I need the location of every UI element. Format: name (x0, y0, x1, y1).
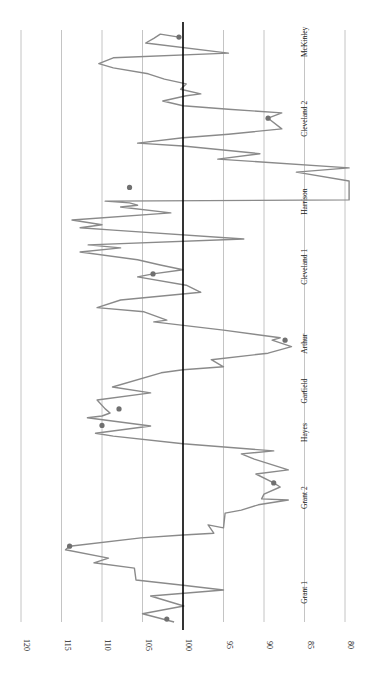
tick-label-90: 90 (265, 641, 274, 649)
marker-dot-8 (265, 116, 270, 121)
tick-label-110: 110 (103, 639, 112, 651)
marker-dot-3 (99, 423, 104, 428)
tick-label-95: 95 (225, 641, 234, 649)
marker-dot-5 (282, 338, 287, 343)
value-axis-ticks: 12011511010510095908580 (22, 639, 355, 651)
period-label-mckinley: McKinley (301, 26, 310, 57)
marker-dot-1 (67, 544, 72, 549)
period-labels: Grant 1Grant 2HayesGarfieldArthurClevela… (301, 26, 310, 603)
period-label-cleveland-1: Cleveland 1 (301, 249, 310, 285)
chart-canvas: 12011511010510095908580 Grant 1Grant 2Ha… (0, 0, 375, 682)
tick-label-115: 115 (63, 639, 72, 651)
point-markers (67, 35, 288, 622)
tick-label-100: 100 (184, 639, 193, 651)
tick-label-85: 85 (306, 641, 315, 649)
marker-dot-0 (164, 616, 169, 621)
period-label-grant-2: Grant 2 (301, 486, 310, 509)
marker-dot-9 (176, 35, 181, 40)
marker-dot-6 (150, 271, 155, 276)
period-label-arthur: Arthur (301, 333, 310, 353)
tick-label-80: 80 (346, 641, 355, 649)
period-label-cleveland-2: Cleveland 2 (301, 101, 310, 137)
rotated-line-chart: 12011511010510095908580 Grant 1Grant 2Ha… (0, 0, 375, 682)
marker-dot-2 (271, 480, 276, 485)
period-label-grant-1: Grant 1 (301, 581, 310, 604)
period-label-harrison: Harrison (301, 188, 310, 214)
period-label-garfield: Garfield (301, 378, 310, 403)
tick-label-120: 120 (22, 639, 31, 651)
marker-dot-4 (116, 406, 121, 411)
period-label-hayes: Hayes (301, 423, 310, 442)
tick-label-105: 105 (144, 639, 153, 651)
marker-dot-7 (127, 185, 132, 190)
